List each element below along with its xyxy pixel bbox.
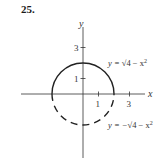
y-tick-label-1: 1 (74, 74, 79, 84)
x-axis-label: x (147, 88, 153, 99)
circle-graph: y x 1 3 1 3 y = √4 − x2 y = −√4 − x2 (0, 0, 168, 168)
y-axis-label: y (78, 18, 84, 29)
upper-curve-label: y = √4 − x2 (107, 58, 147, 69)
x-tick-label-1: 1 (96, 99, 101, 109)
svg-text:y = √4 − x2: y = √4 − x2 (107, 58, 147, 69)
lower-curve-label: y = −√4 − x2 (107, 120, 153, 131)
svg-text:y = −√4 − x2: y = −√4 − x2 (107, 120, 153, 131)
x-tick-label-3: 3 (127, 99, 132, 109)
y-tick-label-3: 3 (74, 43, 79, 53)
